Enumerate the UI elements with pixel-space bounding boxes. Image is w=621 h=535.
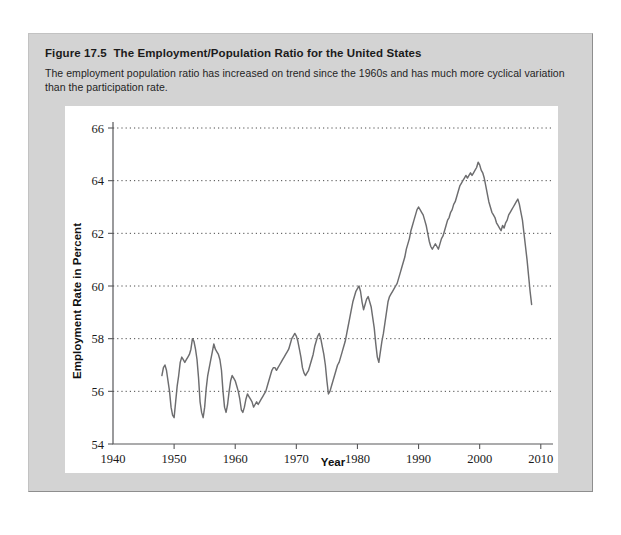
x-axis-title: Year — [321, 456, 346, 468]
y-tick-label: 56 — [92, 385, 105, 399]
figure-title-text: The Employment/Population Ratio for the … — [113, 47, 421, 59]
gridlines — [113, 128, 553, 391]
y-axis-title: Employment Rate in Percent — [71, 223, 83, 379]
x-tick-label: 2010 — [528, 452, 553, 466]
figure-caption-text: The employment population ratio has incr… — [45, 66, 565, 94]
figure-title: Figure 17.5 The Employment/Population Ra… — [45, 46, 575, 61]
x-tick-label: 1970 — [284, 452, 309, 466]
series-employment-population-ratio — [162, 162, 532, 417]
y-tick-label: 66 — [92, 122, 105, 136]
figure-label: Figure — [45, 47, 81, 59]
y-tick-label: 58 — [92, 332, 105, 346]
figure-panel: Figure 17.5 The Employment/Population Ra… — [28, 33, 593, 492]
page-root: Figure 17.5 The Employment/Population Ra… — [0, 0, 621, 535]
x-tick-label: 1940 — [101, 452, 126, 466]
y-tick-label: 62 — [92, 227, 105, 241]
axis-lines — [113, 122, 553, 444]
y-tick-label: 60 — [92, 280, 105, 294]
y-tick-label: 54 — [92, 438, 105, 452]
y-tick-labels: 54565860626466 — [92, 122, 105, 452]
x-tick-label: 2000 — [467, 452, 492, 466]
plot-card: 54565860626466 1940195019601970198019902… — [65, 106, 558, 473]
x-tick-label: 1950 — [162, 452, 187, 466]
line-chart: 54565860626466 1940195019601970198019902… — [65, 106, 558, 473]
x-tick-label: 1960 — [223, 452, 248, 466]
x-tick-label: 1980 — [345, 452, 370, 466]
x-tick-label: 1990 — [406, 452, 431, 466]
y-tick-label: 64 — [92, 174, 105, 188]
figure-number: 17.5 — [84, 47, 107, 59]
figure-caption-block: Figure 17.5 The Employment/Population Ra… — [45, 46, 575, 94]
axis-ticks — [108, 128, 541, 449]
